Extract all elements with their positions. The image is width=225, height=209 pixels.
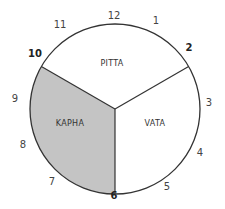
- hour-8: 8: [20, 139, 26, 150]
- hour-1: 1: [153, 15, 159, 26]
- divider-2: [115, 67, 189, 110]
- hour-3: 3: [206, 97, 212, 108]
- kapha-label: KAPHA: [56, 119, 85, 128]
- hour-10: 10: [28, 48, 42, 59]
- dosha-clock-diagram: PITTA VATA KAPHA 12 1 2 3 4 5 6 7 8 9 10…: [0, 0, 225, 209]
- hour-2: 2: [186, 42, 193, 53]
- pitta-label: PITTA: [100, 59, 123, 68]
- hour-7: 7: [49, 176, 55, 187]
- vata-label: VATA: [145, 119, 166, 128]
- hour-4: 4: [197, 147, 203, 158]
- hour-12: 12: [108, 10, 121, 21]
- hour-5: 5: [164, 181, 170, 192]
- hour-6: 6: [111, 190, 118, 201]
- hour-11: 11: [54, 19, 67, 30]
- hour-9: 9: [12, 93, 18, 104]
- kapha-sector: [30, 67, 115, 195]
